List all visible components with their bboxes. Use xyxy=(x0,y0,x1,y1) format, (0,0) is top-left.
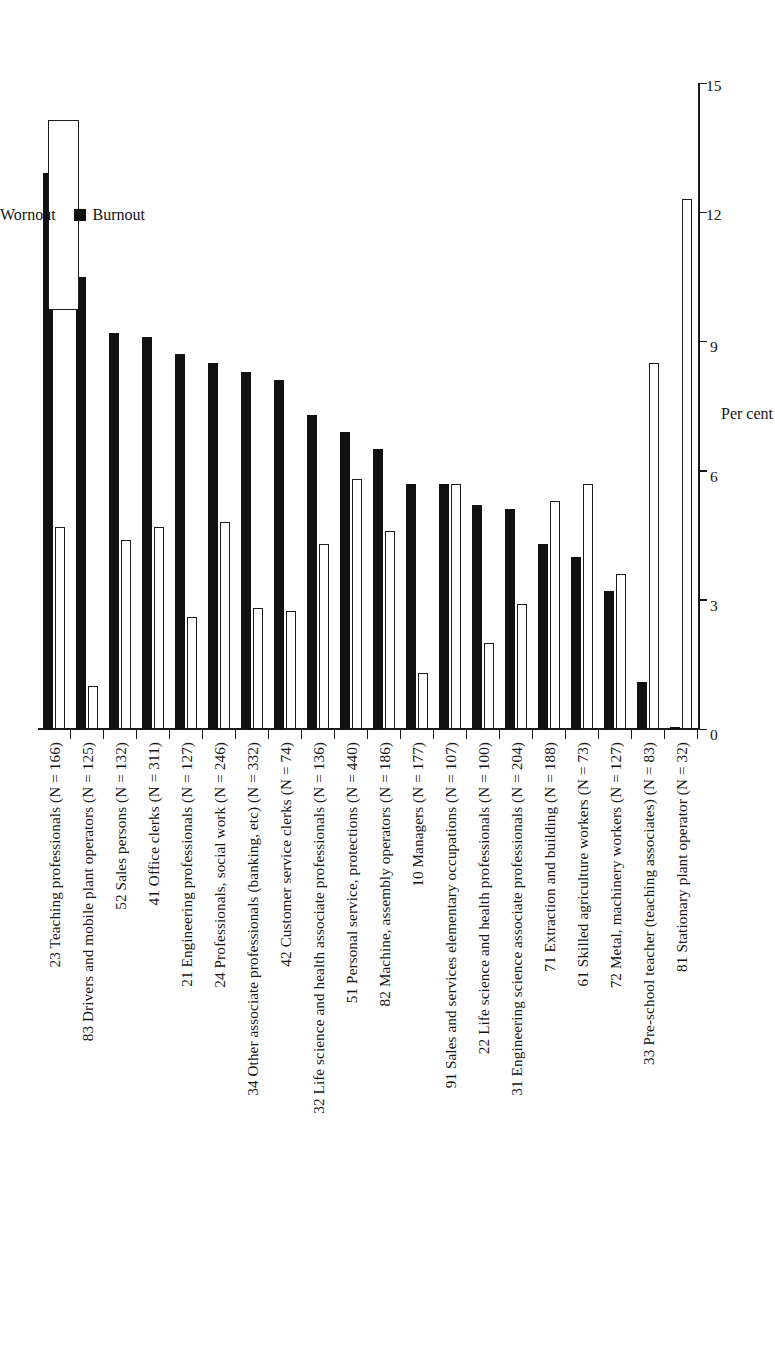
bar-wornout xyxy=(187,617,197,729)
value-axis-line xyxy=(698,84,700,730)
bar-group xyxy=(533,83,566,729)
bar-wornout xyxy=(385,531,395,729)
category-label: 22 Life science and health professionals… xyxy=(475,742,490,1054)
category-tick xyxy=(367,730,368,739)
category-tick xyxy=(136,730,137,739)
category-tick xyxy=(565,730,566,739)
value-axis-tick xyxy=(698,729,707,730)
category-label: 72 Metal, machinery workers (N = 127) xyxy=(607,742,622,988)
category-tick xyxy=(598,730,599,739)
bar-wornout xyxy=(451,484,461,729)
category-label: 61 Skilled agriculture workers (N = 73) xyxy=(574,742,589,986)
category-tick xyxy=(268,730,269,739)
category-tick xyxy=(499,730,500,739)
bar-group xyxy=(170,83,203,729)
value-axis-tick-label-text: 12 xyxy=(706,207,722,223)
value-axis-tick-label: 6 xyxy=(706,473,722,481)
bar-wornout xyxy=(352,479,362,729)
category-tick xyxy=(532,730,533,739)
category-label: 82 Machine, assembly operators (N = 186) xyxy=(376,742,391,1006)
filled-square-icon xyxy=(73,209,85,221)
category-label: 42 Customer service clerks (N = 74) xyxy=(277,742,292,967)
bar-group xyxy=(335,83,368,729)
bar-burnout xyxy=(76,277,86,729)
bar-burnout xyxy=(571,557,581,729)
category-label: 32 Life science and health associate pro… xyxy=(310,742,325,1114)
plot-area: 23 Teaching professionals (N = 166)83 Dr… xyxy=(38,30,738,1320)
bar-wornout xyxy=(319,544,329,729)
value-axis-tick-label-text: 9 xyxy=(709,340,717,356)
bar-wornout xyxy=(253,608,263,729)
bar-wornout xyxy=(649,363,659,729)
category-label: 34 Other associate professionals (bankin… xyxy=(244,742,259,1096)
bar-group xyxy=(401,83,434,729)
category-tick xyxy=(169,730,170,739)
bar-burnout xyxy=(439,484,449,729)
category-tick xyxy=(631,730,632,739)
bar-burnout xyxy=(142,337,152,729)
category-label: 71 Extraction and building (N = 188) xyxy=(541,742,556,972)
bar-burnout xyxy=(208,363,218,729)
value-axis-tick-label-text: 0 xyxy=(709,727,717,743)
bar-burnout xyxy=(406,484,416,729)
category-tick xyxy=(301,730,302,739)
legend-label: Burnout xyxy=(92,207,144,223)
bar-wornout xyxy=(484,643,494,729)
bar-wornout xyxy=(616,574,626,729)
value-axis-tick-label: 9 xyxy=(706,344,722,352)
bar-burnout xyxy=(109,333,119,729)
value-axis-tick-label: 0 xyxy=(706,731,722,739)
bar-group xyxy=(632,83,665,729)
category-tick xyxy=(664,730,665,739)
bar-burnout xyxy=(670,727,680,729)
bar-burnout xyxy=(505,509,515,729)
bar-burnout xyxy=(340,432,350,729)
bar-group xyxy=(500,83,533,729)
category-label: 52 Sales persons (N = 132) xyxy=(112,742,127,910)
category-tick xyxy=(697,730,698,739)
category-label: 21 Engineering professionals (N = 127) xyxy=(178,742,193,987)
bar-wornout xyxy=(220,522,230,729)
bar-group xyxy=(665,83,698,729)
legend-entry-burnout: Burnout xyxy=(73,207,144,223)
bar-burnout xyxy=(637,682,647,729)
category-label: 81 Stationary plant operator (N = 32) xyxy=(673,742,688,972)
bar-burnout xyxy=(373,449,383,729)
bar-burnout xyxy=(472,505,482,729)
bar-wornout xyxy=(550,501,560,729)
bar-group xyxy=(302,83,335,729)
bar-group xyxy=(269,83,302,729)
value-axis-tick-label: 15 xyxy=(706,78,722,94)
bar-group xyxy=(236,83,269,729)
bar-group xyxy=(203,83,236,729)
category-tick xyxy=(235,730,236,739)
legend-box: WornoutBurnout xyxy=(48,120,79,310)
value-axis-tick-label-text: 6 xyxy=(709,469,717,485)
axis-title-text: Per cent xyxy=(721,405,773,423)
value-axis-tick xyxy=(698,470,707,471)
category-tick xyxy=(334,730,335,739)
value-axis-tick-label: 3 xyxy=(706,602,722,610)
legend-entries: WornoutBurnout xyxy=(0,207,145,223)
bar-group xyxy=(566,83,599,729)
bar-burnout xyxy=(175,354,185,729)
value-axis-tick xyxy=(698,341,707,342)
bar-burnout xyxy=(307,415,317,729)
legend-entry-wornout: Wornout xyxy=(0,207,55,223)
category-label: 41 Office clerks (N = 311) xyxy=(145,742,160,905)
category-label: 10 Managers (N = 177) xyxy=(409,742,424,887)
category-label: 24 Professionals, social work (N = 246) xyxy=(211,742,226,988)
bar-wornout xyxy=(286,611,296,729)
category-tick xyxy=(103,730,104,739)
value-axis-tick-label-text: 3 xyxy=(709,598,717,614)
legend-label: Wornout xyxy=(0,207,55,223)
bar-burnout xyxy=(604,591,614,729)
category-tick xyxy=(202,730,203,739)
bar-burnout xyxy=(241,372,251,729)
bar-wornout xyxy=(154,527,164,729)
bar-group xyxy=(467,83,500,729)
category-label-column: 23 Teaching professionals (N = 166)83 Dr… xyxy=(38,730,698,1320)
bar-group xyxy=(599,83,632,729)
category-tick xyxy=(433,730,434,739)
bar-wornout xyxy=(88,686,98,729)
